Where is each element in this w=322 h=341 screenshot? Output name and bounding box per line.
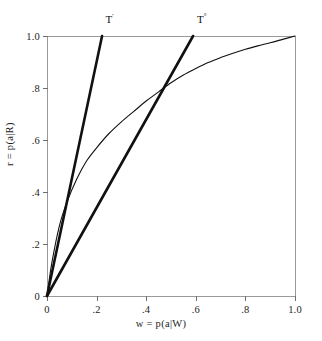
curve-annotation-label: T°: [197, 12, 207, 25]
chart-figure: r = p(a|R) w = p(a|W) 0.2.4.6.81.0 0.2.4…: [0, 0, 322, 341]
series-line-tzero: [47, 36, 193, 296]
x-axis-title: w = p(a|W): [0, 318, 322, 329]
x-tick-label: 0: [44, 304, 49, 315]
x-tick-mark: [146, 296, 147, 301]
x-tick-mark: [245, 296, 246, 301]
y-tick-label: 1.0: [26, 31, 40, 42]
y-tick-label: 0: [35, 291, 40, 302]
y-tick-label: .8: [32, 83, 40, 94]
y-axis-title: r = p(a|R): [4, 122, 15, 166]
y-tick-label: .6: [32, 135, 40, 146]
y-tick-label: .4: [32, 187, 40, 198]
x-tick-label: .2: [92, 304, 100, 315]
x-tick-mark: [295, 296, 296, 301]
x-tick-label: 1.0: [288, 304, 302, 315]
x-tick-label: .8: [241, 304, 249, 315]
plot-area: [47, 36, 295, 296]
x-tick-label: .4: [142, 304, 150, 315]
x-tick-label: .6: [192, 304, 200, 315]
y-tick-label: .2: [32, 239, 40, 250]
right-frame-line: [295, 36, 296, 296]
x-tick-mark: [196, 296, 197, 301]
x-tick-mark: [97, 296, 98, 301]
annotation-superscript: °: [204, 12, 207, 20]
curve-annotation-label: T': [106, 12, 114, 25]
series-svg: [47, 36, 295, 296]
annotation-superscript: ': [112, 12, 113, 20]
x-axis-line: [47, 296, 295, 297]
series-line-tprime: [47, 36, 102, 296]
